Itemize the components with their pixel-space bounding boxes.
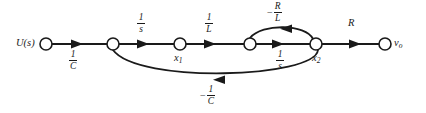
node-label-output-sub: o xyxy=(399,41,403,50)
gain-numerator: R xyxy=(274,2,282,12)
gain-numerator: 1 xyxy=(207,85,214,95)
arrowhead-feedback-upper xyxy=(280,25,292,34)
gain-label-R: R xyxy=(348,18,354,29)
arrowhead-u-to-n2 xyxy=(71,40,83,49)
gain-label-neg-1-over-C: − 1 C xyxy=(200,85,215,106)
gain-fraction-1-over-C: 1 C xyxy=(69,50,77,71)
node-label-output: vo xyxy=(394,38,402,49)
node-input-u[interactable] xyxy=(40,38,52,50)
gain-numerator: 1 xyxy=(70,50,77,60)
node-label-x2-sub: 2 xyxy=(317,56,321,65)
node-summing-junction[interactable] xyxy=(107,38,119,50)
gain-label-1-over-L: 1 L xyxy=(205,13,213,34)
gain-fraction-1-over-s: 1 s xyxy=(137,13,145,34)
gain-denominator: s xyxy=(138,24,144,34)
signal-flow-graph-figure: U(s) x1 x2 vo 1 C 1 s 1 L 1 s xyxy=(0,0,426,113)
gain-label-1-over-s-second: 1 s xyxy=(276,50,284,71)
node-x1[interactable] xyxy=(174,38,186,50)
gain-label-1-over-s-first: 1 s xyxy=(137,13,145,34)
arrowhead-n2-to-x1 xyxy=(137,40,149,49)
gain-denominator: L xyxy=(205,24,212,34)
gain-numerator: 1 xyxy=(138,13,145,23)
gain-denominator: L xyxy=(274,13,281,23)
gain-denominator: s xyxy=(277,61,283,71)
gain-label-1-over-C: 1 C xyxy=(69,50,77,71)
gain-denominator: C xyxy=(69,61,77,71)
gain-denominator: C xyxy=(207,96,215,106)
gain-numerator: 1 xyxy=(277,50,284,60)
gain-fraction-R-over-L: R L xyxy=(274,2,282,23)
arrowhead-n4-to-x2 xyxy=(272,40,284,49)
node-x2[interactable] xyxy=(310,38,322,50)
gain-label-neg-R-over-L: − R L xyxy=(267,2,282,23)
gain-minus-sign: − xyxy=(267,8,273,18)
gain-fraction-1-over-L: 1 L xyxy=(205,13,213,34)
node-intermediate[interactable] xyxy=(244,38,256,50)
arrowhead-feedback-lower xyxy=(213,76,225,85)
node-label-x2: x2 xyxy=(312,53,320,64)
node-output-vo[interactable] xyxy=(379,38,391,50)
gain-numerator: 1 xyxy=(206,13,213,23)
arrowhead-x1-to-n4 xyxy=(204,40,216,49)
node-label-x1-sub: 1 xyxy=(179,56,183,65)
gain-fraction-1-over-s-2: 1 s xyxy=(276,50,284,71)
edge-x2-to-n2-feedback-arc xyxy=(113,50,318,73)
arrowhead-x2-to-vo xyxy=(349,40,361,49)
gain-fraction-1-over-C-neg: 1 C xyxy=(207,85,215,106)
node-label-x1: x1 xyxy=(174,53,182,64)
gain-minus-sign: − xyxy=(200,91,206,101)
node-label-input: U(s) xyxy=(16,38,35,49)
